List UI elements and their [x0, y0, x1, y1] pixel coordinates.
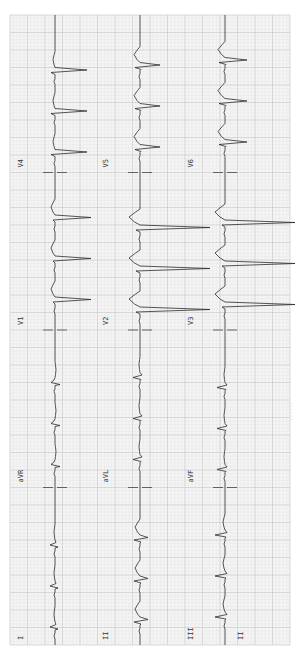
figure-caption: · · · · · ·	[288, 402, 294, 420]
lead-label-avr: aVR	[17, 469, 25, 482]
lead-label-v5: V5	[102, 159, 110, 167]
ecg-sheet: IaVRV1V4IIaVLV2V5IIIaVFV3V6II	[10, 15, 295, 645]
lead-label-i: I	[17, 636, 25, 640]
lead-label-v1: V1	[17, 317, 25, 325]
lead-label-iii: III	[187, 627, 195, 640]
lead-label-v4: V4	[17, 159, 25, 167]
ecg-chart: IaVRV1V4IIaVLV2V5IIIaVFV3V6II · · · · · …	[0, 0, 299, 651]
lead-label-v2: V2	[102, 317, 110, 325]
lead-label-avl: aVL	[102, 470, 110, 483]
lead-label-avf: aVF	[187, 470, 195, 483]
lead-label-v3: V3	[187, 317, 195, 325]
lead-label-v6: V6	[187, 159, 195, 167]
lead-label-ii: II	[237, 632, 245, 640]
lead-label-ii: II	[102, 632, 110, 640]
